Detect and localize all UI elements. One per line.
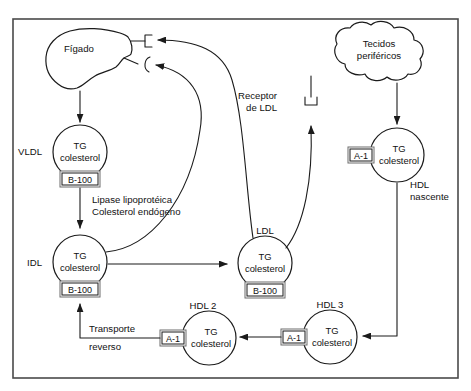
square-bracket-receptor-icon [145,35,152,47]
hdl-2-name-label: HDL 2 [190,300,217,311]
liver-ldl-receptor [124,57,150,72]
reverse-transport-label-line1: Transporte [89,323,135,334]
liver-shape [46,29,132,89]
vldl-core-line2: colesterol [60,152,100,163]
particle-idl: TG colesterol IDL B-100 [27,235,107,297]
hdl-nascente-apo-a1: A-1 [348,147,374,163]
hdl-2-apo-a1: A-1 [160,330,186,346]
hdl-3-apo-a1: A-1 [281,329,307,345]
ldl-core-line2: colesterol [245,263,285,274]
lipoprotein-metabolism-diagram: Fígado Tecidos periféricos Receptor de L… [0,0,471,391]
organ-peripheral-tissues: Tecidos periféricos [335,21,423,80]
ldl-receptor-icon [305,97,317,105]
vldl-apo-b100: B-100 [60,171,100,187]
ldl-receptor-label-line1: Receptor [238,90,278,101]
hdl-3-core-line1: TG [325,325,338,336]
hdl-2-core-line1: TG [204,326,217,337]
vldl-name-label: VLDL [18,146,43,157]
ldl-core-line1: TG [258,251,271,262]
ldl-apo-label: B-100 [253,286,277,296]
particle-hdl-nascente: TG colesterol A-1 HDL nascente [348,128,449,202]
hdl-nascente-apo-label: A-1 [354,151,368,161]
hdl-2-apo-label: A-1 [166,334,180,344]
idl-core-line2: colesterol [60,262,100,273]
hdl-3-name-label: HDL 3 [317,299,344,310]
ldl-receptor-label-line2: de LDL [246,102,278,113]
particle-hdl-2: TG colesterol HDL 2 A-1 [160,300,236,365]
ldl-apo-b100: B-100 [245,282,285,298]
vldl-apo-label: B-100 [68,175,92,185]
liver-label: Fígado [64,43,94,54]
tissues-label-line1: Tecidos [363,38,396,49]
idl-name-label: IDL [27,257,43,268]
liver-remnant-receptor [131,35,152,47]
particle-hdl-3: TG colesterol HDL 3 A-1 [281,299,357,364]
idl-apo-label: B-100 [68,285,92,295]
lipase-label-line2: Colesterol endógeno [92,206,181,217]
idl-core-line1: TG [73,250,86,261]
hdl-nascente-name-line2: nascente [410,191,449,202]
hdl-nascente-core-line1: TG [392,143,405,154]
arrow-idl-to-liver-receptor [106,65,201,252]
organ-liver: Fígado [46,29,132,89]
hdl-nascente-name-line1: HDL [410,179,430,190]
curved-bracket-receptor-icon [145,57,150,72]
idl-apo-b100: B-100 [60,281,100,297]
particle-vldl: TG colesterol VLDL B-100 [18,125,107,187]
reverse-transport-label-line2: reverso [89,341,121,352]
hdl-2-core-line2: colesterol [191,338,231,349]
ldl-name-label: LDL [256,225,274,236]
particle-ldl: TG colesterol LDL B-100 [238,225,292,298]
ldl-receptor-group: Receptor de LDL [238,76,317,113]
tissues-label-line2: periféricos [357,50,401,61]
arrow-hdl-nascente-to-hdl3 [363,183,397,336]
hdl-3-core-line2: colesterol [312,337,352,348]
arrow-ldl-to-ldl-receptor [286,126,311,248]
vldl-core-line1: TG [73,140,86,151]
hdl-nascente-core-line2: colesterol [379,155,419,166]
hdl-3-apo-label: A-1 [287,333,301,343]
lipase-label-line1: Lipase lipoprotéica [92,194,173,205]
diagram-canvas: Fígado Tecidos periféricos Receptor de L… [0,0,471,391]
